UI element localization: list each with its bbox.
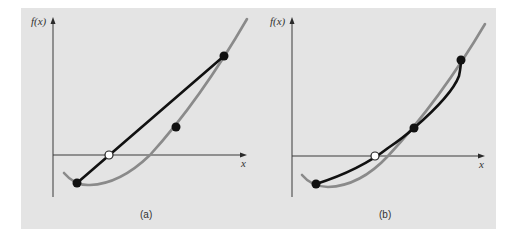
data-point-2 (172, 123, 181, 132)
data-point-2 (410, 124, 419, 133)
data-point-3 (457, 56, 466, 65)
root-estimate-point (105, 151, 113, 159)
data-point-1 (73, 179, 82, 188)
x-axis-label: x (240, 157, 246, 169)
y-axis-label: f(x) (270, 15, 286, 28)
panel-caption: (a) (140, 209, 152, 220)
figure: f(x) x (a) f(x) x (b) (0, 0, 517, 244)
y-axis-label: f(x) (31, 15, 47, 28)
data-point-3 (220, 52, 229, 61)
root-estimate-point (371, 152, 379, 160)
x-axis-label: x (478, 158, 484, 170)
panel-caption: (b) (379, 209, 391, 220)
data-point-1 (312, 180, 321, 189)
